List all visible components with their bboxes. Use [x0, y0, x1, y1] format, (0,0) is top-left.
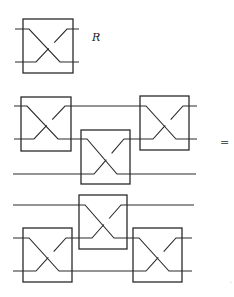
r-gate-3 [140, 96, 189, 150]
r-gate-label: R [91, 31, 100, 44]
r-gate-2 [81, 130, 130, 184]
r-gate-2 [79, 195, 127, 249]
corner-mark: ’ [230, 280, 232, 287]
r-gate-0 [23, 19, 73, 73]
lhs-circuit [13, 96, 197, 184]
yang-baxter-diagram: R = ’ [0, 0, 234, 297]
equals-sign: = [220, 136, 229, 149]
r-gate-3 [133, 228, 182, 282]
r-gate-1 [23, 228, 72, 282]
r-gate-1 [21, 97, 71, 151]
rhs-circuit [13, 195, 194, 282]
r-gate-definition [15, 19, 79, 73]
